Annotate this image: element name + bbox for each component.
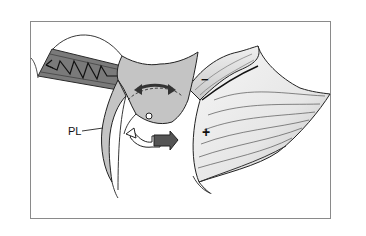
minus-sign-label: −: [201, 72, 209, 87]
plus-sign-label: +: [202, 124, 210, 140]
pl-label: PL: [68, 125, 81, 137]
pivot-point-icon: [146, 113, 152, 119]
diagram-figure: PL − +: [0, 0, 366, 236]
